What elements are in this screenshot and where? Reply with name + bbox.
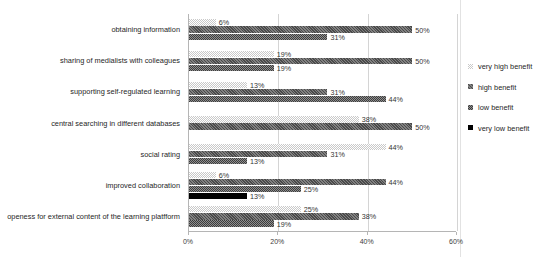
bar-very-high-benefit xyxy=(189,51,274,57)
x-axis-tick-label: 40% xyxy=(360,238,374,245)
bar-high-benefit xyxy=(189,26,412,32)
bar-row: 6% xyxy=(189,172,456,178)
bar-very-high-benefit xyxy=(189,82,247,88)
bar-very-high-benefit xyxy=(189,19,216,25)
light-checker-swatch-icon xyxy=(468,64,473,69)
bar-very-high-benefit xyxy=(189,172,216,178)
bar-value-label: 19% xyxy=(274,63,291,72)
bar-low-benefit xyxy=(189,158,247,164)
legend-item-label: very low benefit xyxy=(478,124,529,133)
legend-item-label: high benefit xyxy=(478,83,516,92)
bar-group: 19%50%19% xyxy=(189,51,456,71)
bar-very-low-benefit xyxy=(189,193,247,199)
x-axis-tick-label: 20% xyxy=(270,238,284,245)
category-label: sharing of medialists with colleagues xyxy=(0,56,180,65)
gridline xyxy=(457,14,458,231)
bar-row: 31% xyxy=(189,34,456,40)
bar-low-benefit xyxy=(189,186,301,192)
bar-row: 13% xyxy=(189,193,456,199)
bar-value-label: 13% xyxy=(247,157,264,166)
x-axis-tick-mark xyxy=(456,232,457,235)
category-label: social rating xyxy=(0,150,180,159)
bar-very-high-benefit xyxy=(189,144,386,150)
bar-high-benefit xyxy=(189,179,386,185)
x-axis-tick-mark xyxy=(188,232,189,235)
legend-item-label: low benefit xyxy=(478,103,513,112)
bar-row: 50% xyxy=(189,26,456,32)
bar-row: 31% xyxy=(189,89,456,95)
bar-high-benefit xyxy=(189,58,412,64)
bar-row: 50% xyxy=(189,123,456,129)
x-axis-tick-label: 60% xyxy=(449,238,463,245)
bar-low-benefit xyxy=(189,34,327,40)
gray-checker-swatch-icon xyxy=(468,105,473,110)
bar-value-label: 31% xyxy=(327,32,344,41)
bar-value-label: 50% xyxy=(412,122,429,131)
bar-row: 31% xyxy=(189,151,456,157)
bar-row: 44% xyxy=(189,179,456,185)
bar-group: 25%38%19% xyxy=(189,206,456,226)
legend-item[interactable]: high benefit xyxy=(468,83,542,93)
bar-low-benefit xyxy=(189,96,386,102)
legend-item[interactable]: very low benefit xyxy=(468,124,542,134)
category-label: supporting self-regulated learning xyxy=(0,87,180,96)
category-axis-labels: obtaining informationsharing of medialis… xyxy=(0,14,186,232)
bar-chart: obtaining informationsharing of medialis… xyxy=(0,0,542,257)
bar-value-label: 19% xyxy=(274,219,291,228)
bar-low-benefit xyxy=(189,65,274,71)
bar-row: 19% xyxy=(189,65,456,71)
bar-value-label: 44% xyxy=(386,94,403,103)
bar-high-benefit xyxy=(189,89,327,95)
plot-area: 6%50%31%19%50%19%13%31%44%38%50%44%31%13… xyxy=(188,14,456,232)
legend-item[interactable]: low benefit xyxy=(468,103,542,113)
bar-group: 6%50%31% xyxy=(189,19,456,39)
bar-low-benefit xyxy=(189,220,274,226)
dark-hatch-swatch-icon xyxy=(468,84,473,89)
solid-black-swatch-icon xyxy=(468,125,473,130)
bar-group: 6%44%25%13% xyxy=(189,172,456,200)
x-axis-tick-mark xyxy=(277,232,278,235)
bar-very-high-benefit xyxy=(189,206,301,212)
x-axis-tick-mark xyxy=(367,232,368,235)
bar-group: 13%31%44% xyxy=(189,82,456,102)
legend-item[interactable]: very high benefit xyxy=(468,62,542,72)
bar-row: 19% xyxy=(189,220,456,226)
bar-row: 38% xyxy=(189,213,456,219)
bar-row: 44% xyxy=(189,144,456,150)
chart-legend: very high benefithigh benefitlow benefit… xyxy=(468,62,542,144)
bar-row: 25% xyxy=(189,186,456,192)
category-label: central searching in different databases xyxy=(0,119,180,128)
x-axis-tick-label: 0% xyxy=(183,238,193,245)
legend-item-label: very high benefit xyxy=(478,62,532,71)
bar-row: 50% xyxy=(189,58,456,64)
bar-row: 13% xyxy=(189,82,456,88)
bar-row: 44% xyxy=(189,96,456,102)
category-label: openess for external content of the lear… xyxy=(0,212,180,221)
category-label: improved collaboration xyxy=(0,181,180,190)
legend-divider xyxy=(460,0,461,257)
bar-high-benefit xyxy=(189,123,412,129)
category-label: obtaining information xyxy=(0,25,180,34)
bar-very-high-benefit xyxy=(189,116,359,122)
bar-group: 44%31%13% xyxy=(189,144,456,164)
bar-value-label: 13% xyxy=(247,191,264,200)
bar-row: 25% xyxy=(189,206,456,212)
bar-row: 13% xyxy=(189,158,456,164)
bar-group: 38%50% xyxy=(189,116,456,129)
